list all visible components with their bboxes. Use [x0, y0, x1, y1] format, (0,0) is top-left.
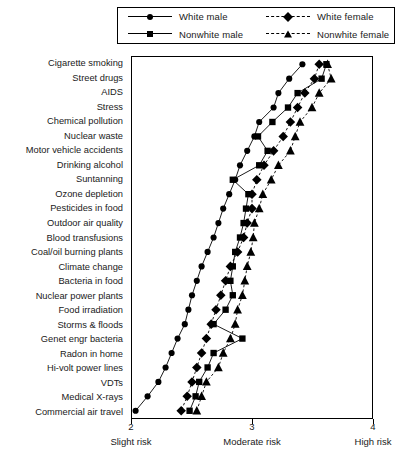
diamond-data-point — [202, 334, 212, 344]
category-label: Hi-volt power lines — [47, 363, 127, 373]
diamond-data-point — [182, 392, 192, 402]
category-label: Nuclear waste — [64, 131, 127, 141]
diamond-data-point — [300, 88, 310, 98]
triangle-data-point — [192, 406, 201, 414]
circle-data-point — [163, 364, 169, 370]
circle-data-point — [244, 148, 250, 154]
series-nonwhite-male — [186, 61, 329, 414]
circle-data-point — [182, 321, 188, 327]
circle-data-point — [133, 408, 139, 414]
series-line — [190, 64, 327, 411]
category-label: Drinking alcohol — [57, 160, 127, 170]
triangle-data-point — [238, 290, 247, 298]
circle-data-point — [275, 90, 281, 96]
circle-data-point — [169, 350, 175, 356]
series-white-female — [176, 59, 324, 415]
circle-data-point — [299, 61, 305, 67]
legend-item-white-male: White male — [118, 11, 256, 23]
legend-item-white-female: White female — [256, 11, 394, 23]
category-label: Coal/oil burning plants — [31, 247, 127, 257]
category-label: Pesticides in food — [50, 203, 127, 213]
diamond-data-point — [187, 377, 197, 387]
circle-data-point — [185, 307, 191, 313]
triangle-data-point — [240, 276, 249, 284]
triangle-data-point — [226, 334, 235, 342]
circle-data-point — [189, 292, 195, 298]
risk-perception-chart: White maleWhite femaleNonwhite maleNonwh… — [0, 0, 410, 458]
circle-data-point — [220, 206, 226, 212]
category-label: VDTs — [101, 378, 127, 388]
circle-data-point — [271, 104, 277, 110]
circle-data-point — [155, 379, 161, 385]
diamond-data-point — [197, 348, 207, 358]
category-label: Nuclear power plants — [36, 291, 127, 301]
square-data-point — [318, 75, 324, 81]
legend-sample — [128, 11, 172, 23]
x-axis-caption: Slight risk — [110, 436, 151, 447]
x-tick-label: 4 — [370, 421, 375, 432]
diamond-data-point — [239, 233, 249, 243]
legend-sample — [266, 11, 310, 23]
legend-item-nonwhite-male: Nonwhite male — [118, 28, 256, 40]
square-marker-icon — [147, 31, 153, 37]
diamond-data-point — [278, 132, 288, 142]
diamond-data-point — [211, 305, 221, 315]
triangle-data-point — [246, 247, 255, 255]
category-label: AIDS — [101, 87, 127, 97]
triangle-data-point — [291, 132, 300, 140]
diamond-data-point — [192, 363, 202, 373]
legend-label: White female — [317, 11, 374, 22]
square-data-point — [230, 177, 236, 183]
category-label: Chemical pollution — [47, 116, 127, 126]
circle-data-point — [211, 234, 217, 240]
circle-data-point — [286, 76, 292, 82]
square-data-point — [204, 364, 210, 370]
x-axis-captions: Slight riskModerate riskHigh risk — [0, 436, 410, 452]
diamond-data-point — [206, 319, 216, 329]
square-data-point — [210, 350, 216, 356]
diamond-data-point — [252, 175, 262, 185]
triangle-marker-icon — [284, 31, 292, 38]
circle-data-point — [226, 191, 232, 197]
legend-item-nonwhite-female: Nonwhite female — [256, 28, 394, 40]
series-line — [136, 64, 303, 411]
square-data-point — [196, 379, 202, 385]
square-data-point — [192, 393, 198, 399]
diamond-data-point — [176, 406, 186, 416]
category-label: Climate change — [58, 262, 127, 272]
legend-label: White male — [179, 11, 228, 22]
x-axis-tick-labels: 234 — [0, 421, 410, 435]
square-data-point — [222, 307, 228, 313]
series-layer — [132, 57, 372, 418]
diamond-marker-icon — [283, 12, 293, 22]
diamond-data-point — [247, 189, 257, 199]
circle-data-point — [215, 220, 221, 226]
triangle-data-point — [243, 262, 252, 270]
diamond-data-point — [293, 103, 303, 113]
x-tick-label: 3 — [249, 421, 254, 432]
square-data-point — [269, 119, 275, 125]
circle-data-point — [194, 278, 200, 284]
square-data-point — [239, 335, 245, 341]
triangle-data-point — [249, 233, 258, 241]
circle-data-point — [175, 335, 181, 341]
circle-data-point — [205, 249, 211, 255]
triangle-data-point — [274, 161, 283, 169]
x-axis-caption: Moderate risk — [223, 436, 281, 447]
legend-sample — [128, 28, 172, 40]
category-label: Cigarette smoking — [48, 58, 127, 68]
square-data-point — [285, 104, 291, 110]
category-label: Radon in home — [60, 349, 127, 359]
category-label: Blood transfusions — [47, 233, 128, 243]
category-label: Food irradiation — [58, 305, 127, 315]
category-label: Bacteria in food — [58, 276, 127, 286]
square-data-point — [186, 408, 192, 414]
category-axis-labels: Cigarette smokingStreet drugsAIDSStressC… — [0, 56, 127, 419]
category-label: Commercial air travel — [35, 407, 127, 417]
category-label: Medical X-rays — [62, 392, 127, 402]
triangle-data-point — [233, 305, 242, 313]
circle-data-point — [237, 162, 243, 168]
plot-area — [131, 56, 373, 419]
circle-data-point — [199, 263, 205, 269]
triangle-data-point — [214, 363, 223, 371]
